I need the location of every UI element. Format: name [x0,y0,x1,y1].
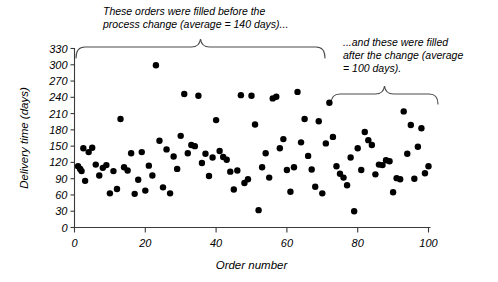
data-point [344,182,350,188]
data-point [259,164,265,170]
data-point [347,154,353,160]
data-point [362,129,368,135]
data-point [238,92,244,98]
plot-canvas: 0306090120150180210240270300330020406080… [0,0,498,282]
data-point [178,133,184,139]
data-point [312,184,318,190]
brace-group [76,39,438,104]
data-point [114,186,120,192]
y-axis-tick-label: 240 [48,91,68,103]
data-point [404,151,410,157]
data-point [305,153,311,159]
data-point [128,150,134,156]
y-axis-tick-label: 270 [48,75,68,87]
data-point [323,140,329,146]
data-point [167,190,173,196]
data-point [255,207,261,213]
y-axis-tick-label: 210 [48,108,68,120]
data-point [273,94,279,100]
data-point [372,171,378,177]
data-point [351,208,357,214]
data-point [110,168,116,174]
data-point [245,176,251,182]
data-point [107,190,113,196]
data-point [103,162,109,168]
data-point [156,138,162,144]
scatter-plot-figure: These orders were filled before the proc… [0,0,498,282]
data-point [287,189,293,195]
data-point [294,89,300,95]
data-point [401,108,407,114]
data-point [248,92,254,98]
data-point [316,118,322,124]
data-point [170,153,176,159]
data-point [142,187,148,193]
data-point [231,186,237,192]
data-point [146,162,152,168]
data-points-group [75,62,432,214]
x-axis-title: Order number [216,259,289,271]
data-point [308,166,314,172]
axis-labels-group: 0306090120150180210240270300330020406080… [18,43,439,271]
data-point [89,145,95,151]
data-point [355,145,361,151]
y-axis-tick-label: 180 [49,124,68,136]
data-point [291,164,297,170]
data-point [80,145,86,151]
data-point [153,62,159,68]
data-point [160,184,166,190]
data-point [280,136,286,142]
data-point [93,161,99,167]
data-point [227,168,233,174]
data-point [330,134,336,140]
y-axis-title: Delivery time (days) [18,87,30,189]
y-axis-tick-label: 0 [61,222,68,234]
data-point [135,177,141,183]
data-point [411,175,417,181]
data-point [82,178,88,184]
data-point [277,145,283,151]
data-point [206,173,212,179]
x-axis-tick-label: 60 [281,237,294,249]
data-point [195,92,201,98]
data-point [234,167,240,173]
data-point [185,150,191,156]
data-point [333,163,339,169]
data-point [209,154,215,160]
data-point [181,91,187,97]
y-axis-tick-label: 300 [49,59,68,71]
data-point [284,167,290,173]
y-axis-tick-label: 150 [49,140,68,152]
x-axis-tick-label: 40 [210,237,223,249]
x-axis-tick-label: 0 [71,237,78,249]
data-point [340,174,346,180]
x-axis-tick-label: 20 [138,237,152,249]
data-point [319,190,325,196]
data-point [415,143,421,149]
y-axis-tick-label: 60 [55,189,68,201]
data-point [213,117,219,123]
data-point [390,189,396,195]
data-point [397,176,403,182]
brace-after-change [331,86,438,104]
data-point [266,174,272,180]
data-point [117,116,123,122]
data-point [78,168,84,174]
data-point [326,100,332,106]
data-point [386,158,392,164]
x-axis-tick-label: 100 [419,237,438,249]
y-axis-tick-label: 330 [49,43,68,55]
data-point [216,148,222,154]
data-point [301,116,307,122]
data-point [96,172,102,178]
data-point [298,139,304,145]
data-point [252,121,258,127]
data-point [149,172,155,178]
y-axis-tick-label: 90 [55,173,68,185]
data-point [369,142,375,148]
data-point [131,191,137,197]
data-point [202,151,208,157]
data-point [192,143,198,149]
data-point [224,157,230,163]
data-point [163,146,169,152]
